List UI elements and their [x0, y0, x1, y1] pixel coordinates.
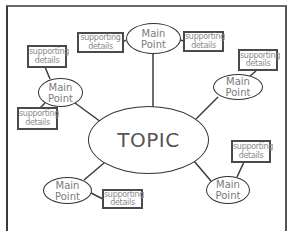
main-point-label-line2: Point: [39, 93, 82, 104]
detail-line2: details: [233, 152, 269, 161]
connector-right-to-topic: [196, 97, 218, 119]
main-point-label-line2: Point: [214, 87, 262, 98]
concept-map-canvas: TOPIC Main Point supporting details supp…: [0, 0, 292, 232]
main-point-label-line1: Main: [207, 179, 249, 190]
detail-line2: details: [240, 60, 276, 69]
connector-left-to-topic: [75, 103, 101, 122]
main-point-right: Main Point: [213, 74, 263, 100]
connector-left-to-detail-upper: [45, 67, 50, 79]
connector-bottom-left-to-topic: [84, 163, 104, 180]
topic-label: TOPIC: [89, 135, 208, 146]
main-point-label-line1: Main: [214, 76, 262, 87]
main-point-left: Main Point: [38, 78, 83, 107]
supporting-details-left-upper: supporting details: [27, 45, 67, 68]
main-point-label-line2: Point: [207, 190, 249, 201]
detail-line2: details: [19, 119, 56, 128]
main-point-label-line1: Main: [44, 180, 91, 191]
detail-line2: details: [29, 57, 65, 66]
detail-line2: details: [79, 43, 122, 52]
main-point-label-line1: Main: [127, 28, 180, 39]
connector-bottom-right-to-topic: [194, 161, 211, 181]
main-point-bottom-right: Main Point: [206, 176, 250, 204]
supporting-details-bottom-left: supporting details: [102, 189, 143, 209]
supporting-details-top-left: supporting details: [77, 32, 124, 53]
supporting-details-bottom-right: supporting details: [231, 140, 271, 163]
supporting-details-top-right: supporting details: [183, 31, 224, 52]
supporting-details-left-lower: supporting details: [17, 107, 58, 130]
main-point-label-line2: Point: [127, 39, 180, 50]
main-point-label-line2: Point: [44, 191, 91, 202]
main-point-label-line1: Main: [39, 82, 82, 93]
connector-bottom-right-to-detail: [237, 162, 244, 177]
detail-line2: details: [104, 199, 141, 208]
detail-line2: details: [185, 42, 222, 51]
supporting-details-right: supporting details: [238, 49, 278, 71]
topic-node: TOPIC: [88, 106, 209, 174]
main-point-top: Main Point: [126, 23, 181, 54]
main-point-bottom-left: Main Point: [43, 177, 92, 204]
